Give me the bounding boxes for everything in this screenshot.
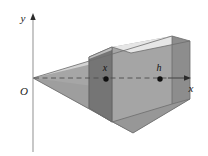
- figure-container: y x O x h: [0, 0, 208, 156]
- h-marker-label: h: [157, 62, 162, 73]
- wedge-solid: [33, 36, 190, 133]
- y-axis-arrowhead: [30, 13, 35, 20]
- x-axis-label: x: [188, 82, 194, 94]
- wedge-right-end-face: [172, 36, 190, 104]
- x-marker-label: x: [102, 62, 108, 73]
- h-marker-dot: [157, 76, 162, 81]
- origin-label: O: [20, 85, 28, 97]
- y-axis-group: [30, 13, 35, 152]
- wedge-diagram: y x O x h: [0, 0, 208, 156]
- y-axis-label: y: [20, 12, 26, 24]
- x-marker-dot: [103, 76, 108, 81]
